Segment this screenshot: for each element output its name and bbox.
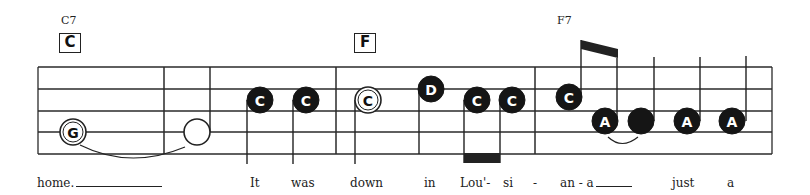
beam-ca [581,40,618,58]
note-c: C [355,87,381,113]
lyric-a: a [727,176,734,190]
note-c: C [247,87,273,113]
lyric-down: down [350,176,383,190]
chord-name-c7: C7 [61,14,76,27]
lyric-in: in [424,176,436,190]
chord-box-c: C [59,33,81,53]
svg-text:A: A [600,114,611,130]
lyric-hyphen: - [533,176,537,190]
lyric-just: just [672,176,694,190]
note-a: A [674,108,700,134]
svg-text:C: C [472,93,482,109]
note-blank [184,119,210,145]
note-a: A [719,108,745,134]
svg-text:C: C [301,93,311,109]
music-staff: GCCCDCCCAAA [0,0,810,195]
note-c: C [293,87,319,113]
svg-text:C: C [507,93,517,109]
chord-box-f: F [354,33,376,53]
svg-text:D: D [425,82,437,98]
tie-g [80,145,185,158]
note-blank [628,108,654,134]
lyric-it: It [250,176,260,190]
svg-text:A: A [682,114,693,130]
lyric-ana: an - a [560,176,632,190]
note-c: C [556,84,582,110]
note-a: A [592,108,618,134]
lyric-si: si [503,176,513,190]
note-c: C [464,87,490,113]
staff-lines [38,67,772,154]
note-c: C [499,87,525,113]
tie-a [608,137,638,144]
lyric-was: was [291,176,315,190]
svg-text:C: C [363,93,373,109]
lyric-lou: Lou'- [460,176,490,190]
svg-text:C: C [255,93,265,109]
lyric-home: home. [37,176,162,190]
svg-text:C: C [564,90,574,106]
beam-louisi [464,153,500,163]
svg-text:A: A [727,114,738,130]
chord-name-f7: F7 [557,14,572,27]
svg-text:G: G [67,125,79,141]
note-d: D [418,76,444,102]
note-g: G [60,119,86,145]
